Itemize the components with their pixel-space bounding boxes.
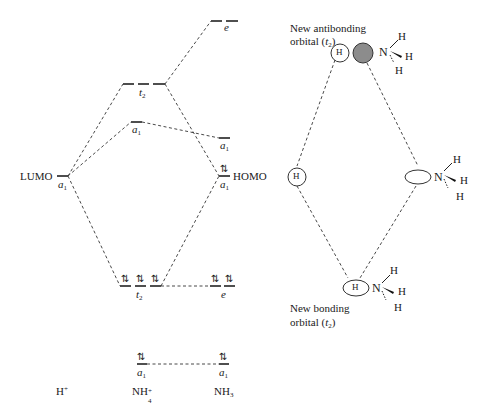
nh4-a1-low-label: a1 xyxy=(137,367,146,380)
a1-mid-label: a1 xyxy=(132,124,141,137)
antibonding-n-lobe-shaded xyxy=(353,43,373,63)
antibonding-h-top: H xyxy=(398,31,406,42)
antibonding-h-label: H xyxy=(336,48,343,57)
h-a1-label: a1 xyxy=(58,179,67,192)
antibonding-h-right: H xyxy=(405,51,413,62)
bonding-h-top: H xyxy=(390,265,398,276)
nh3-e-electron-pair-2: ⇅ xyxy=(225,274,231,284)
antibonding-h-bottom: H xyxy=(395,65,403,76)
t2-electron-pair-2: ⇅ xyxy=(136,274,142,284)
homo-tag: HOMO xyxy=(233,171,267,182)
bonding-h-label: H xyxy=(352,283,359,292)
t2-electron-pair-1: ⇅ xyxy=(121,274,127,284)
column-label-h-plus: H+ xyxy=(56,386,68,397)
bonding-h-bottom: H xyxy=(394,302,402,313)
bonding-caption-line2: orbital (t2) xyxy=(290,317,335,330)
nh3-a1-upper-label: a1 xyxy=(220,140,229,153)
t2-antibonding-label: t2 xyxy=(139,87,146,100)
mid-h-top: H xyxy=(453,154,461,165)
antibonding-n-atom: N xyxy=(379,46,388,58)
bonding-n-atom: N xyxy=(372,282,381,294)
t2-electron-pair-3: ⇅ xyxy=(151,274,157,284)
homo-electron-pair: ⇅ xyxy=(220,164,226,174)
antibonding-caption-line1: New antibonding xyxy=(290,23,366,34)
e-top-label: e xyxy=(224,22,229,33)
mo-diagram-lines xyxy=(0,0,493,412)
nh3-lone-pair-orbital xyxy=(405,170,431,184)
mid-h-right: H xyxy=(460,175,468,186)
lumo-tag: LUMO xyxy=(20,171,52,182)
bonding-h-right: H xyxy=(398,286,406,297)
antibonding-caption-line2: orbital (t2) xyxy=(290,36,335,49)
nh3-e-electron-pair-1: ⇅ xyxy=(211,274,217,284)
column-label-nh3: NH3 xyxy=(214,386,233,399)
nh3-e-label: e xyxy=(221,289,226,300)
column-label-nh4-plus: NH+4 xyxy=(132,386,153,397)
mid-h-bottom: H xyxy=(456,191,464,202)
bonding-caption-line1: New bonding xyxy=(290,303,350,314)
nh4-a1-low-electron-pair: ⇅ xyxy=(137,352,143,362)
mid-h-label: H xyxy=(293,172,300,181)
nh3-a1-low-label: a1 xyxy=(219,367,228,380)
t2-bonding-label: t2 xyxy=(136,289,143,302)
nh3-a1-low-electron-pair: ⇅ xyxy=(219,352,225,362)
mid-n-atom: N xyxy=(434,171,443,183)
nh3-a1-homo-label: a1 xyxy=(220,179,229,192)
